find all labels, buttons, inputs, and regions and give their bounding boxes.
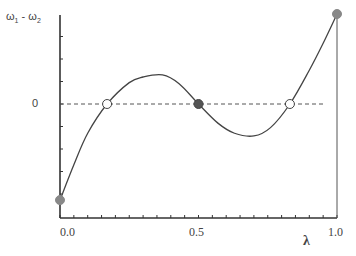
filled-circle-marker (333, 10, 342, 19)
chart-plot (0, 0, 356, 256)
open-circle-marker (285, 100, 294, 109)
axes (60, 15, 337, 218)
open-circle-marker (103, 100, 112, 109)
markers (56, 10, 342, 205)
filled-circle-marker (56, 196, 65, 205)
y-axis-label: ω1 - ω2 (6, 10, 41, 24)
filled-circle-marker (194, 100, 203, 109)
x-axis-label: λ (303, 233, 310, 249)
x-tick-label-1: 1.0 (328, 225, 343, 240)
y-tick-label-zero: 0 (32, 97, 38, 109)
x-tick-label-0-5: 0.5 (189, 225, 204, 240)
x-tick-label-0: 0.0 (60, 225, 75, 240)
